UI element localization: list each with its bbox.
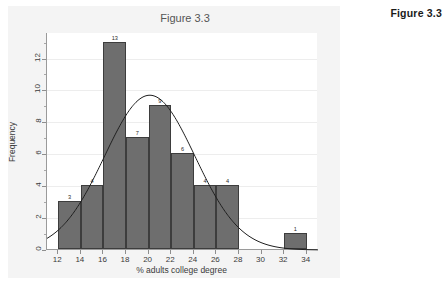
y-axis-tick-label: 4	[34, 182, 43, 186]
x-axis-tick	[125, 250, 126, 254]
x-axis-tick	[306, 250, 307, 254]
x-axis-tick-label: 28	[234, 255, 243, 264]
x-axis-tick	[170, 250, 171, 254]
x-axis-tick-label: 20	[143, 255, 152, 264]
x-axis-tick	[80, 250, 81, 254]
x-axis-tick-label: 16	[98, 255, 107, 264]
x-axis-tick	[193, 250, 194, 254]
x-axis-tick-label: 18	[121, 255, 130, 264]
x-axis-tick-label: 22	[166, 255, 175, 264]
x-axis-tick-label: 30	[256, 255, 265, 264]
x-axis-tick-label: 34	[301, 255, 310, 264]
x-axis-tick	[57, 250, 58, 254]
x-axis-tick-label: 24	[188, 255, 197, 264]
x-axis-tick	[261, 250, 262, 254]
x-axis-tick	[238, 250, 239, 254]
x-axis-tick-label: 12	[53, 255, 62, 264]
x-axis-tick	[215, 250, 216, 254]
y-axis: 024681012	[0, 33, 46, 251]
x-axis-tick-label: 26	[211, 255, 220, 264]
x-axis-tick-label: 14	[75, 255, 84, 264]
figure-caption-label: Figure 3.3	[390, 7, 442, 19]
y-axis-tick-label: 12	[34, 53, 43, 62]
x-axis-tick	[148, 250, 149, 254]
y-axis-tick-label: 10	[34, 84, 43, 93]
y-axis-tick-label: 0	[34, 246, 43, 250]
x-axis-title: % adults college degree	[46, 265, 317, 275]
chart-title: Figure 3.3	[45, 12, 325, 24]
plot-area: 3413796441	[46, 33, 317, 250]
normal-curve-overlay	[47, 33, 318, 250]
x-axis-tick	[283, 250, 284, 254]
y-axis-tick-label: 8	[34, 119, 43, 123]
y-axis-tick-label: 6	[34, 151, 43, 155]
x-axis-tick	[102, 250, 103, 254]
x-axis-tick-label: 32	[279, 255, 288, 264]
y-axis-tick-label: 2	[34, 214, 43, 218]
normal-curve-path	[47, 95, 318, 250]
